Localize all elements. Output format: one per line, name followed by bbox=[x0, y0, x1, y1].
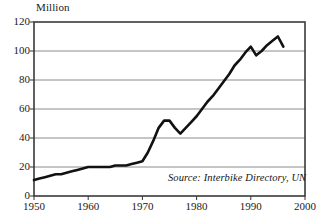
series-line-0 bbox=[34, 37, 283, 181]
gridlines bbox=[34, 51, 305, 167]
chart-plot-area bbox=[0, 0, 324, 221]
x-tick-label: 1960 bbox=[68, 201, 108, 212]
x-tick-label: 1950 bbox=[14, 201, 54, 212]
bicycle-production-chart: Million 020406080100120 1950196019701980… bbox=[0, 0, 324, 221]
y-tick-label: 100 bbox=[4, 45, 30, 56]
x-tick-label: 1970 bbox=[122, 201, 162, 212]
y-tick-label: 20 bbox=[4, 161, 30, 172]
data-series-layer bbox=[34, 37, 283, 181]
x-tick-label: 2000 bbox=[285, 201, 324, 212]
y-tick-label: 60 bbox=[4, 103, 30, 114]
y-tick-label: 80 bbox=[4, 74, 30, 85]
x-tick-label: 1980 bbox=[177, 201, 217, 212]
y-tick-label: 40 bbox=[4, 132, 30, 143]
source-annotation: Source: Interbike Directory, UN bbox=[168, 172, 306, 183]
y-tick-label: 120 bbox=[4, 16, 30, 27]
y-axis-title: Million bbox=[36, 1, 70, 13]
x-tick-label: 1990 bbox=[231, 201, 271, 212]
